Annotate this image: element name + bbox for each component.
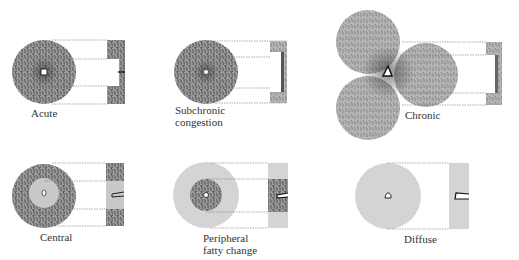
diagram-canvas xyxy=(0,0,519,260)
label-acute: Acute xyxy=(31,107,57,119)
label-diffuse: Diffuse xyxy=(404,233,437,245)
panel-peripheral xyxy=(173,162,288,228)
label-central: Central xyxy=(40,231,72,243)
central-vein-icon xyxy=(42,190,46,196)
label-peripheral: Peripheral fatty change xyxy=(203,232,257,256)
panel-diffuse xyxy=(355,163,469,229)
panel-central xyxy=(12,163,124,228)
central-vein-icon xyxy=(204,70,208,74)
panel-acute xyxy=(12,40,125,104)
label-subchronic: Subchronic congestion xyxy=(175,104,225,128)
label-chronic: Chronic xyxy=(405,109,440,121)
central-vein-icon xyxy=(204,193,209,198)
panel-subchronic xyxy=(174,40,287,104)
central-vein-icon xyxy=(41,69,47,75)
